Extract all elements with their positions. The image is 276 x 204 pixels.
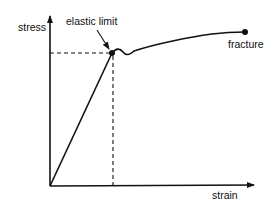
plastic-region-curve (112, 32, 245, 55)
fracture-label: fracture (228, 38, 264, 50)
elastic-region-line (50, 53, 112, 186)
stress-strain-diagram: stress strain elastic limit fracture (0, 0, 276, 204)
elastic-limit-label: elastic limit (66, 15, 117, 27)
x-axis-label: strain (212, 189, 238, 201)
elastic-limit-point (109, 50, 115, 56)
fracture-point (242, 29, 248, 35)
y-axis-label: stress (18, 21, 46, 33)
x-axis (50, 185, 254, 186)
elastic-limit-pointer-arrow (97, 30, 109, 49)
